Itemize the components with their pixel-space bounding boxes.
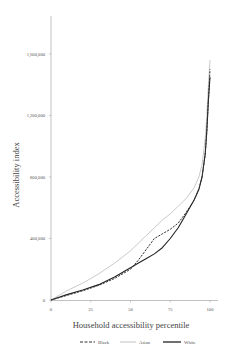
axes: 0400,000800,0001,200,0001,600,000 025507… bbox=[11, 16, 218, 330]
y-tick-label: 1,200,000 bbox=[27, 113, 46, 119]
line-chart: 0400,000800,0001,200,0001,600,000 025507… bbox=[0, 0, 231, 361]
x-tick-label: 25 bbox=[88, 307, 93, 312]
legend-item-white: White bbox=[163, 340, 196, 345]
legend-item-black: Black bbox=[80, 340, 110, 345]
legend-item-asian: Asian bbox=[120, 340, 151, 345]
y-tick-label: 800,000 bbox=[30, 175, 46, 181]
plot-area bbox=[51, 60, 210, 300]
series-line-white bbox=[51, 77, 210, 300]
y-tick-label: 400,000 bbox=[30, 236, 46, 242]
legend-label-asian: Asian bbox=[139, 340, 151, 345]
legend-label-white: White bbox=[184, 340, 196, 345]
x-tick-label: 50 bbox=[128, 307, 133, 312]
y-axis-title: Accessibility index bbox=[11, 142, 21, 208]
series-line-asian bbox=[51, 60, 210, 300]
x-tick-label: 100 bbox=[207, 307, 215, 312]
series-line-black bbox=[51, 69, 210, 300]
x-tick-label: 0 bbox=[50, 307, 53, 312]
legend-label-black: Black bbox=[98, 340, 110, 345]
y-tick-label: 1,600,000 bbox=[27, 52, 46, 58]
x-axis-title: Household accessibility percentile bbox=[73, 320, 190, 330]
x-tick-label: 75 bbox=[168, 307, 173, 312]
legend: Black Asian White bbox=[80, 340, 196, 345]
y-tick-label: 0 bbox=[43, 298, 46, 303]
